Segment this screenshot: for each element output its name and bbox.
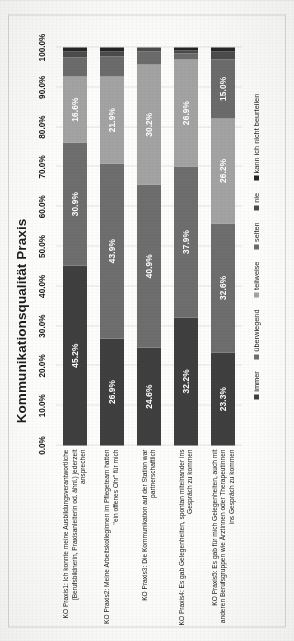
x-axis-tick-label: 90.0% (38, 75, 47, 98)
bar-segment-value-label: 32.2% (181, 369, 191, 393)
bar-segment[interactable]: 30.2% (137, 64, 161, 184)
legend-label: überwiegend (252, 309, 261, 351)
x-axis-ticks: 0.0%10.0%20.0%30.0%40.0%50.0%60.0%70.0%8… (38, 47, 54, 445)
bar-segment-value-label: 21.9% (107, 108, 117, 132)
bar-segment-value-label: 32.6% (218, 275, 228, 299)
bar-segment-value-label: 45.2% (70, 343, 80, 367)
bar-segment[interactable] (137, 47, 161, 51)
x-axis-tick-label: 80.0% (38, 115, 47, 138)
bar-segment-value-label: 37.9% (181, 229, 191, 253)
category-label: KO Praxis3: Die Kommunikation auf der St… (141, 449, 158, 625)
bar-segment[interactable]: 16.6% (63, 76, 87, 142)
legend-swatch-icon (254, 244, 259, 249)
bar-segment[interactable]: 37.9% (174, 166, 198, 317)
stacked-bar-row[interactable]: 24.6%40.9%30.2% (137, 47, 161, 445)
bar-segment[interactable] (174, 47, 198, 50)
bar-segment[interactable]: 32.2% (174, 317, 198, 445)
bar-segment[interactable] (211, 47, 235, 51)
legend-label: teilweise (252, 261, 261, 289)
bar-segment[interactable]: 21.9% (100, 76, 124, 163)
bar-segment-value-label: 30.9% (70, 192, 80, 216)
bar-segment[interactable] (211, 51, 235, 59)
bar-segment-value-label: 40.9% (144, 254, 154, 278)
legend-swatch-icon (254, 394, 259, 399)
category-label: KO Praxis4: Es gab Gelegenheiten, sponta… (178, 449, 195, 625)
legend-label: nie (252, 192, 261, 202)
bar-segment[interactable] (100, 56, 124, 76)
legend-swatch-icon (254, 175, 259, 180)
chart-legend: immerüberwiegendteilweiseseltenniekann i… (252, 47, 261, 445)
bar-segment[interactable]: 26.2% (211, 118, 235, 222)
bar-segment[interactable]: 32.6% (211, 223, 235, 353)
x-axis-tick-label: 60.0% (38, 195, 47, 218)
rotated-chart-stage: Kommunikationsqualität Praxis 0.0%10.0%2… (0, 0, 294, 641)
scanned-chart-page: Kommunikationsqualität Praxis 0.0%10.0%2… (0, 0, 294, 641)
legend-item[interactable]: nie (252, 192, 261, 209)
legend-item[interactable]: teilweise (252, 261, 261, 297)
bar-segment-value-label: 30.2% (144, 112, 154, 136)
x-axis-tick-label: 0.0% (38, 436, 47, 455)
bar-segment-value-label: 24.6% (144, 384, 154, 408)
category-label: KO Praxis2: Meine Arbeitskolleginnen im … (103, 449, 120, 625)
legend-item[interactable]: immer (252, 371, 261, 399)
stacked-bar-row[interactable]: 45.2%30.9%16.6% (63, 47, 87, 445)
legend-swatch-icon (254, 354, 259, 359)
bar-segment[interactable] (63, 51, 87, 57)
legend-label: selten (252, 222, 261, 242)
x-axis-tick-label: 40.0% (38, 274, 47, 297)
bar-segment[interactable] (100, 51, 124, 55)
x-axis-tick-label: 20.0% (38, 354, 47, 377)
legend-swatch-icon (254, 205, 259, 210)
bar-segment[interactable]: 15.0% (211, 59, 235, 119)
legend-label: immer (252, 371, 261, 392)
chart-title: Kommunikationsqualität Praxis (14, 0, 29, 641)
category-label: KO Praxis5: Es gab für mich Gelegenheite… (211, 449, 236, 625)
bar-segment[interactable]: 30.9% (63, 142, 87, 265)
stacked-bar-row[interactable]: 23.3%32.6%26.2%15.0% (211, 47, 235, 445)
bar-segment-value-label: 26.9% (107, 379, 117, 403)
legend-item[interactable]: selten (252, 222, 261, 249)
bar-segment-value-label: 26.2% (218, 158, 228, 182)
bar-segment[interactable] (100, 47, 124, 51)
bar-segment[interactable]: 24.6% (137, 347, 161, 445)
stacked-bars-area: 45.2%30.9%16.6%26.9%43.9%21.9%24.6%40.9%… (56, 47, 242, 445)
bar-segment[interactable]: 26.9% (100, 338, 124, 445)
legend-swatch-icon (254, 292, 259, 297)
x-axis-tick-label: 50.0% (38, 234, 47, 257)
bar-segment[interactable]: 43.9% (100, 163, 124, 338)
stacked-bar-row[interactable]: 32.2%37.9%26.9% (174, 47, 198, 445)
x-axis-tick-label: 30.0% (38, 314, 47, 337)
x-axis-tick-label: 10.0% (38, 394, 47, 417)
bar-segment[interactable]: 45.2% (63, 265, 87, 445)
bar-segment[interactable]: 26.9% (174, 59, 198, 166)
bar-segment[interactable]: 23.3% (211, 352, 235, 445)
bar-segment[interactable] (137, 51, 161, 64)
bar-segment[interactable] (174, 53, 198, 59)
bar-segment-value-label: 16.6% (70, 97, 80, 121)
bar-segment[interactable] (63, 47, 87, 51)
category-axis-labels: KO Praxis1: Ich konnte meine Ausbildungs… (56, 447, 242, 625)
bar-segment-value-label: 26.9% (181, 100, 191, 124)
bar-segment-value-label: 43.9% (107, 238, 117, 262)
bar-segment-value-label: 23.3% (218, 387, 228, 411)
x-axis-tick-label: 100.0% (38, 33, 47, 61)
legend-item[interactable]: überwiegend (252, 309, 261, 359)
bar-segment[interactable]: 40.9% (137, 184, 161, 347)
x-axis-tick-label: 70.0% (38, 155, 47, 178)
legend-label: kann ich nicht beurteilen (252, 93, 261, 173)
bar-segment[interactable] (63, 57, 87, 76)
category-label: KO Praxis1: Ich konnte meine Ausbildungs… (62, 449, 87, 625)
legend-item[interactable]: kann ich nicht beurteilen (252, 93, 261, 180)
bar-segment-value-label: 15.0% (218, 76, 228, 100)
stacked-bar-row[interactable]: 26.9%43.9%21.9% (100, 47, 124, 445)
